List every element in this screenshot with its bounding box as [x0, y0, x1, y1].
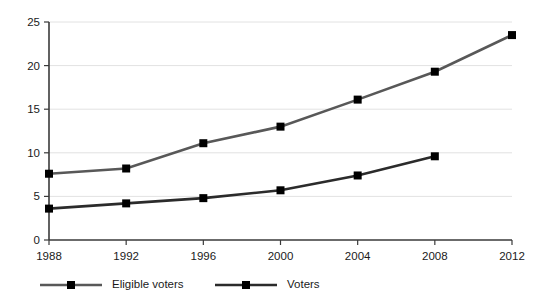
x-tick-label-1988: 1988	[36, 250, 62, 262]
y-tick-label-5: 5	[34, 190, 40, 202]
x-tick-label-1996: 1996	[191, 250, 217, 262]
data-point-eligible-voters-2008	[431, 68, 439, 76]
data-point-voters-1996	[199, 194, 207, 202]
x-tick-label-2004: 2004	[345, 250, 371, 262]
y-tick-label-10: 10	[27, 147, 40, 159]
data-point-eligible-voters-2012	[508, 31, 516, 39]
line-chart: 0510152025 1988199219962000200420082012 …	[0, 0, 536, 304]
data-point-voters-1992	[122, 199, 130, 207]
data-point-voters-2004	[354, 171, 362, 179]
legend-marker-voters	[242, 281, 250, 289]
legend-label-voters: Voters	[287, 278, 320, 290]
data-point-eligible-voters-1996	[199, 139, 207, 147]
legend-label-eligible-voters: Eligible voters	[112, 278, 184, 290]
legend-marker-eligible-voters	[67, 281, 75, 289]
x-tick-label-2008: 2008	[422, 250, 448, 262]
y-tick-label-25: 25	[27, 16, 40, 28]
x-tick-label-2000: 2000	[268, 250, 294, 262]
data-point-voters-2008	[431, 152, 439, 160]
data-point-eligible-voters-1992	[122, 165, 130, 173]
chart-canvas: 0510152025 1988199219962000200420082012 …	[0, 0, 536, 304]
data-point-eligible-voters-2000	[277, 123, 285, 131]
x-tick-label-2012: 2012	[499, 250, 525, 262]
data-point-voters-2000	[277, 186, 285, 194]
data-point-eligible-voters-2004	[354, 96, 362, 104]
data-point-eligible-voters-1988	[45, 170, 53, 178]
x-tick-label-1992: 1992	[113, 250, 139, 262]
y-tick-label-20: 20	[27, 60, 40, 72]
data-point-voters-1988	[45, 205, 53, 213]
y-tick-label-15: 15	[27, 103, 40, 115]
y-tick-label-0: 0	[34, 234, 40, 246]
